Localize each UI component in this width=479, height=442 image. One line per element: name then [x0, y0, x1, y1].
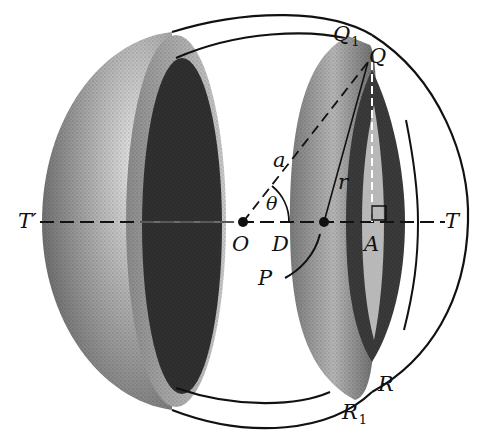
label-p: P	[258, 268, 272, 289]
label-r-point: R	[378, 374, 394, 395]
label-a: a	[273, 150, 286, 171]
label-d: D	[272, 234, 289, 255]
point-o	[238, 217, 248, 227]
label-r1: R1	[342, 402, 367, 426]
sphere-shell-diagram: Q1 Q a r θ T′ T O D A P R R1	[0, 0, 479, 442]
label-theta: θ	[266, 194, 277, 213]
label-r: r	[338, 172, 348, 193]
label-q1: Q1	[333, 24, 360, 48]
label-t-prime: T′	[18, 211, 37, 232]
shell-zone	[290, 36, 418, 400]
point-p	[319, 217, 329, 227]
label-t: T	[445, 211, 459, 232]
label-o: O	[232, 234, 249, 255]
label-a-point: A	[364, 234, 379, 255]
label-q: Q	[369, 46, 386, 67]
diagram-graphic	[0, 0, 479, 442]
